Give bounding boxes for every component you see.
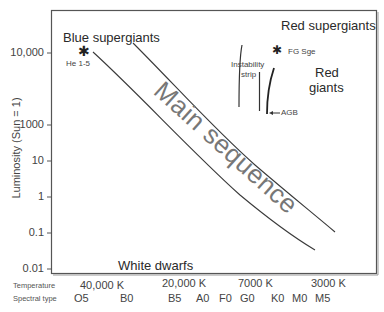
y-tick-0-01: 0.01: [0, 262, 44, 274]
star-he-1-5-icon: ✱: [78, 43, 90, 59]
y-axis-label: Luminosity (Sun = 1): [10, 88, 22, 208]
label-white-dwarfs: White dwarfs: [118, 258, 193, 273]
y-tick-1: 1: [0, 190, 44, 202]
x-spec-k0: K0: [271, 292, 284, 304]
x-row-label-spectral-type: Spectral type: [13, 294, 57, 303]
label-fg-sge: FG Sge: [288, 47, 316, 56]
x-spec-b0: B0: [120, 292, 133, 304]
x-row-label-temperature: Temperature: [13, 281, 55, 290]
label-red-supergiants: Red supergiants: [281, 18, 376, 33]
x-spec-o5: O5: [74, 292, 89, 304]
x-spec-g0: G0: [240, 292, 255, 304]
label-instability-line1: Instability: [231, 60, 264, 69]
star-fg-sge-icon: ✱: [272, 43, 282, 57]
label-red-giants-line2: giants: [309, 80, 344, 95]
label-instability-line2: strip: [241, 70, 256, 79]
agb-track: [267, 68, 274, 114]
x-spec-m5: M5: [315, 292, 330, 304]
x-temp-40000: 40,000 K: [80, 279, 124, 291]
label-agb: AGB: [281, 108, 298, 117]
x-spec-b5: B5: [168, 292, 181, 304]
x-spec-a0: A0: [196, 292, 209, 304]
x-temp-7000: 7000 K: [238, 277, 273, 289]
y-tick-10000: 10,000: [0, 46, 44, 58]
x-temp-3000: 3000 K: [311, 277, 346, 289]
x-temp-20000: 20,000 K: [162, 277, 206, 289]
y-tick-10: 10: [0, 154, 44, 166]
y-tick-0-1: 0.1: [0, 226, 44, 238]
main-sequence-lower-curve: [93, 52, 315, 250]
y-tick-1000: 1000: [0, 118, 44, 130]
label-red-giants-line1: Red: [315, 65, 339, 80]
label-he-1-5: He 1-5: [66, 59, 90, 68]
x-spec-m0: M0: [292, 292, 307, 304]
x-spec-f0: F0: [219, 292, 232, 304]
agb-arrowhead-icon: [269, 111, 273, 115]
hr-diagram: 10,000 1000 10 1 0.1 0.01 Luminosity (Su…: [0, 0, 384, 312]
